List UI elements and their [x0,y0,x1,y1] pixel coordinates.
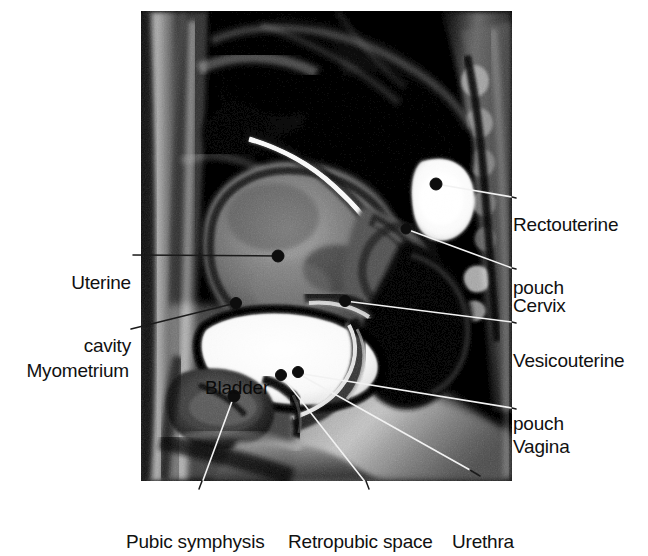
label-vagina-text: Vagina [513,436,570,457]
label-myometrium-text: Myometrium [0,360,129,381]
label-retropubic-space-text: Retropubic space [288,531,433,552]
label-urethra: Urethra [452,489,514,556]
label-uterine-cavity-line1: Uterine [0,272,131,293]
label-retropubic-space: Retropubic space [288,489,433,556]
mri-image [141,11,512,481]
leader-pubic-symphysis-ext [199,481,202,489]
label-bladder-text: Bladder [205,377,269,398]
label-bladder: Bladder [205,335,269,440]
label-pubic-symphysis-text: Pubic symphysis [126,531,265,552]
label-myometrium: Myometrium [0,318,129,423]
label-vesicouterine-pouch-line1: Vesicouterine [513,350,624,371]
label-pubic-symphysis: Pubic symphysis [126,489,265,556]
label-urethra-text: Urethra [452,531,514,552]
label-vagina: Vagina [513,394,570,499]
leader-retropubic-ext [366,481,369,489]
label-rectouterine-pouch-line1: Rectouterine [513,214,618,235]
